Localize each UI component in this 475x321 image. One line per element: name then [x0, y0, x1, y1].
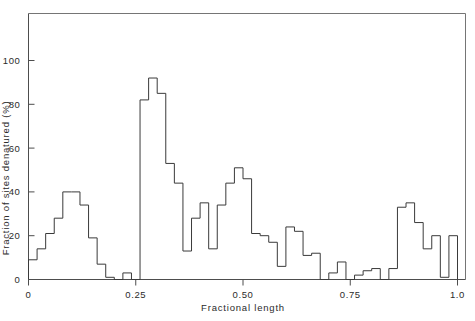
y-tick-label-100: 100 [3, 55, 21, 66]
plot-frame [29, 14, 466, 280]
axis-left-bottom [29, 14, 466, 280]
x-tick-label-0: 0 [26, 289, 32, 300]
histogram-plot: 02040608010000.250.500.751.0 Fractional … [0, 0, 475, 321]
x-tick-label-0.75: 0.75 [340, 289, 361, 300]
frame-top-right [29, 14, 466, 280]
x-axis-title: Fractional length [201, 302, 285, 313]
x-tick-label-0.25: 0.25 [125, 289, 146, 300]
histogram-outline [29, 78, 458, 279]
chart-figure: 02040608010000.250.500.751.0 Fractional … [0, 0, 475, 321]
y-tick-label-0: 0 [15, 274, 21, 285]
x-tick-label-0.50: 0.50 [233, 289, 254, 300]
x-tick-label-1.0: 1.0 [450, 289, 465, 300]
axis-titles: Fractional lengthFraction of sites denat… [0, 101, 285, 313]
y-axis-title: Fraction of sites denatured (%) [0, 101, 11, 256]
histogram-series [29, 78, 458, 279]
